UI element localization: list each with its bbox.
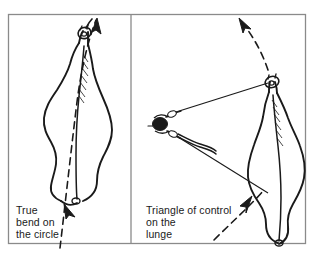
handler-head xyxy=(153,118,168,131)
left-panel-caption: True bend on the circle xyxy=(16,204,59,240)
right-panel-caption: Triangle of control on the lunge xyxy=(146,204,232,240)
lungeing-diagram: True bend on the circle Triangle of cont… xyxy=(0,0,318,261)
